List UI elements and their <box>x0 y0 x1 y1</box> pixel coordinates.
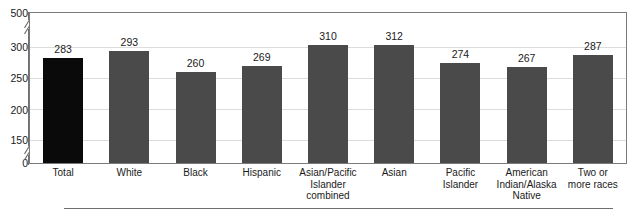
bar-value-label: 287 <box>560 41 626 52</box>
footer-rule <box>64 208 613 209</box>
bar-group-hispanic: 269 <box>229 13 295 163</box>
x-label-two-or-more-races: Two ormore races <box>560 167 626 202</box>
bar-white[interactable] <box>109 51 149 163</box>
x-axis-category-labels: Total White Black Hispanic Asian/Pacific… <box>30 167 626 202</box>
x-label-asian: Asian <box>361 167 427 202</box>
bar-value-label: 293 <box>96 37 162 48</box>
bar-value-label: 269 <box>229 52 295 63</box>
y-tick-250: 250 <box>2 73 28 83</box>
bar-value-label: 310 <box>295 31 361 42</box>
bar-group-asian-pacific-islander-combined: 310 <box>295 13 361 163</box>
x-label-total: Total <box>30 167 96 202</box>
bar-asian[interactable] <box>374 45 414 163</box>
bar-series: 283 293 260 269 310 312 274 267 <box>30 13 626 163</box>
bar-hispanic[interactable] <box>242 66 282 163</box>
bar-value-label: 260 <box>162 58 228 69</box>
bar-group-american-indian-alaska-native: 267 <box>494 13 560 163</box>
x-label-pacific-islander: PacificIslander <box>427 167 493 202</box>
x-label-asian-pacific-islander-combined: Asian/PacificIslandercombined <box>295 167 361 202</box>
bar-group-black: 260 <box>162 13 228 163</box>
bar-group-white: 293 <box>96 13 162 163</box>
bar-two-or-more-races[interactable] <box>573 55 613 163</box>
bar-asian-pacific-islander-combined[interactable] <box>308 45 348 163</box>
bar-black[interactable] <box>176 72 216 163</box>
x-label-american-indian-alaska-native: AmericanIndian/AlaskaNative <box>494 167 560 202</box>
bar-group-asian: 312 <box>361 13 427 163</box>
x-label-black: Black <box>162 167 228 202</box>
x-label-hispanic: Hispanic <box>229 167 295 202</box>
bar-value-label: 274 <box>427 49 493 60</box>
chart-figure: 500 300 250 200 150 0 283 293 260 269 <box>0 0 633 218</box>
bar-group-total: 283 <box>30 13 96 163</box>
bar-total[interactable] <box>43 58 83 163</box>
bar-value-label: 283 <box>30 44 96 55</box>
bar-pacific-islander[interactable] <box>440 63 480 163</box>
y-tick-300: 300 <box>2 42 28 52</box>
bar-american-indian-alaska-native[interactable] <box>507 67 547 163</box>
bar-group-two-or-more-races: 287 <box>560 13 626 163</box>
y-tick-200: 200 <box>2 105 28 115</box>
bar-value-label: 267 <box>494 53 560 64</box>
x-label-white: White <box>96 167 162 202</box>
bar-value-label: 312 <box>361 31 427 42</box>
bar-group-pacific-islander: 274 <box>427 13 493 163</box>
